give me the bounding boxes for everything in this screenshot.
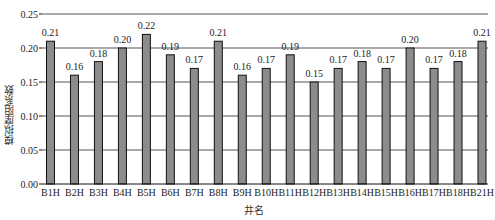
x-tick-label: B8H	[209, 187, 228, 198]
data-label: 0.17	[186, 54, 204, 65]
y-tick-label: 0.10	[21, 111, 39, 122]
y-tick-label: 0.20	[21, 43, 39, 54]
x-tick-label: B16H	[398, 187, 422, 198]
y-tick-label: 0.00	[21, 179, 39, 190]
y-axis-ticks: 0.000.050.100.150.200.25	[21, 9, 43, 190]
x-axis-label: 井名	[244, 202, 264, 217]
x-tick-label: B17H	[422, 187, 446, 198]
bar-B3H	[94, 62, 102, 184]
bar-B18H	[454, 62, 462, 184]
bar-chart: 0.000.050.100.150.200.25 0.210.160.180.2…	[0, 0, 495, 220]
x-tick-label: B13H	[326, 187, 350, 198]
x-axis-ticks: B1HB2HB3HB4HB5HB6HB7HB8HB9HB10HB11HB12HB…	[41, 187, 494, 198]
bar-B4H	[118, 48, 126, 184]
data-label: 0.16	[234, 61, 252, 72]
data-label: 0.19	[162, 41, 180, 52]
bar-B8H	[214, 41, 222, 184]
bar-B14H	[358, 62, 366, 184]
x-tick-label: B10H	[254, 187, 278, 198]
bar-B2H	[70, 75, 78, 184]
bar-B10H	[262, 68, 270, 184]
x-tick-label: B7H	[185, 187, 204, 198]
data-label: 0.17	[425, 54, 443, 65]
x-tick-label: B21H	[470, 187, 494, 198]
data-label: 0.19	[281, 41, 299, 52]
bar-B1H	[47, 41, 55, 184]
x-tick-label: B3H	[89, 187, 108, 198]
y-tick-label: 0.25	[21, 9, 39, 20]
data-label: 0.22	[138, 20, 156, 31]
data-label: 0.18	[90, 48, 108, 59]
bar-B7H	[190, 68, 198, 184]
bar-B15H	[382, 68, 390, 184]
x-tick-label: B5H	[137, 187, 156, 198]
x-tick-label: B15H	[374, 187, 398, 198]
data-label: 0.21	[210, 27, 228, 38]
data-label: 0.17	[258, 54, 276, 65]
bar-B9H	[238, 75, 246, 184]
x-tick-label: B4H	[113, 187, 132, 198]
y-tick-label: 0.05	[21, 145, 39, 156]
bar-B6H	[166, 55, 174, 184]
bar-B5H	[142, 34, 150, 184]
data-label: 0.20	[401, 34, 419, 45]
bar-B16H	[406, 48, 414, 184]
x-tick-label: B1H	[41, 187, 60, 198]
x-tick-label: B11H	[278, 187, 302, 198]
data-label: 0.18	[353, 48, 371, 59]
bar-B11H	[286, 55, 294, 184]
data-label: 0.18	[449, 48, 467, 59]
x-tick-label: B9H	[233, 187, 252, 198]
data-label: 0.21	[473, 27, 491, 38]
x-tick-label: B6H	[161, 187, 180, 198]
bar-B21H	[478, 41, 486, 184]
bar-B12H	[310, 82, 318, 184]
data-label: 0.21	[42, 27, 60, 38]
x-tick-label: B18H	[446, 187, 470, 198]
data-label: 0.15	[305, 68, 323, 79]
bar-B13H	[334, 68, 342, 184]
data-label: 0.17	[329, 54, 347, 65]
data-label: 0.16	[66, 61, 84, 72]
y-axis-label: 模拟摩阻系数	[2, 70, 18, 160]
x-tick-label: B12H	[302, 187, 326, 198]
data-label: 0.20	[114, 34, 132, 45]
bar-B17H	[430, 68, 438, 184]
x-tick-label: B2H	[65, 187, 84, 198]
data-label: 0.17	[377, 54, 395, 65]
x-tick-label: B14H	[350, 187, 374, 198]
y-tick-label: 0.15	[21, 77, 39, 88]
